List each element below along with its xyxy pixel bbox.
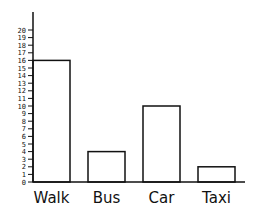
y-tick-label: 12 xyxy=(18,87,26,95)
y-tick-label: 3 xyxy=(22,156,26,164)
y-tick-label: 5 xyxy=(22,141,26,149)
y-tick-label: 18 xyxy=(18,42,26,50)
y-tick-label: 4 xyxy=(22,148,26,156)
bars xyxy=(33,60,235,182)
x-axis-labels: WalkBusCarTaxi xyxy=(34,189,231,207)
y-tick-label: 2 xyxy=(22,163,26,171)
y-tick-label: 14 xyxy=(18,72,26,80)
bar-walk xyxy=(33,60,70,182)
y-tick-label: 6 xyxy=(22,133,26,141)
x-label-taxi: Taxi xyxy=(201,189,231,207)
bar-chart: 01234567891011121314151617181920 WalkBus… xyxy=(0,0,253,217)
y-tick-label: 11 xyxy=(18,95,26,103)
y-axis: 01234567891011121314151617181920 xyxy=(18,27,33,187)
y-tick-label: 8 xyxy=(22,118,26,126)
x-label-bus: Bus xyxy=(93,189,121,207)
y-tick-label: 16 xyxy=(18,57,26,65)
y-tick-label: 1 xyxy=(22,171,26,179)
y-tick-label: 15 xyxy=(18,65,26,73)
x-label-walk: Walk xyxy=(34,189,70,207)
y-tick-label: 9 xyxy=(22,110,26,118)
bar-car xyxy=(143,106,180,182)
y-tick-label: 13 xyxy=(18,80,26,88)
y-tick-label: 10 xyxy=(18,103,26,111)
x-label-car: Car xyxy=(149,189,176,207)
bar-taxi xyxy=(198,167,235,182)
y-tick-label: 19 xyxy=(18,34,26,42)
bar-bus xyxy=(88,152,125,182)
y-tick-label: 0 xyxy=(22,179,26,187)
y-tick-label: 20 xyxy=(18,27,26,35)
y-tick-label: 17 xyxy=(18,49,26,57)
y-tick-label: 7 xyxy=(22,125,26,133)
